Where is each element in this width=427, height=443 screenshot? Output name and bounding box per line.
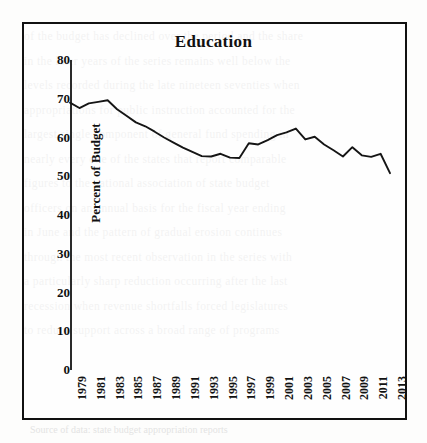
x-tick-1983: 1983 [113,376,128,400]
x-tick-2005: 2005 [320,376,335,400]
x-tick-2011: 2011 [376,376,391,399]
x-tick-2001: 2001 [282,376,297,400]
y-tick-70: 70 [36,91,70,107]
x-tick-2003: 2003 [301,376,316,400]
x-tick-2013: 2013 [395,376,410,400]
y-tick-30: 30 [36,246,70,262]
x-tick-2009: 2009 [357,376,372,400]
x-tick-1995: 1995 [226,376,241,400]
y-tick-80: 80 [36,52,70,68]
x-tick-1985: 1985 [131,376,146,400]
x-tick-1993: 1993 [207,376,222,400]
x-tick-2007: 2007 [339,376,354,400]
plot-area: Percent of Budget 01020304050607080 1979… [70,60,390,370]
figure-caption: Source of data: state budget appropriati… [30,424,410,435]
education-line-path [70,100,390,173]
y-tick-50: 50 [36,168,70,184]
x-tick-1987: 1987 [150,376,165,400]
y-tick-10: 10 [36,323,70,339]
y-tick-60: 60 [36,130,70,146]
x-tick-1979: 1979 [75,376,90,400]
y-tick-40: 40 [36,207,70,223]
figure-panel: of the budget has declined over the peri… [0,0,427,443]
x-tick-1991: 1991 [188,376,203,400]
y-tick-20: 20 [36,285,70,301]
x-tick-1981: 1981 [94,376,109,400]
x-tick-1999: 1999 [263,376,278,400]
x-tick-1997: 1997 [244,376,259,400]
chart-title: Education [0,32,427,52]
x-tick-1989: 1989 [169,376,184,400]
education-line-series [70,60,390,370]
y-tick-0: 0 [36,362,70,378]
